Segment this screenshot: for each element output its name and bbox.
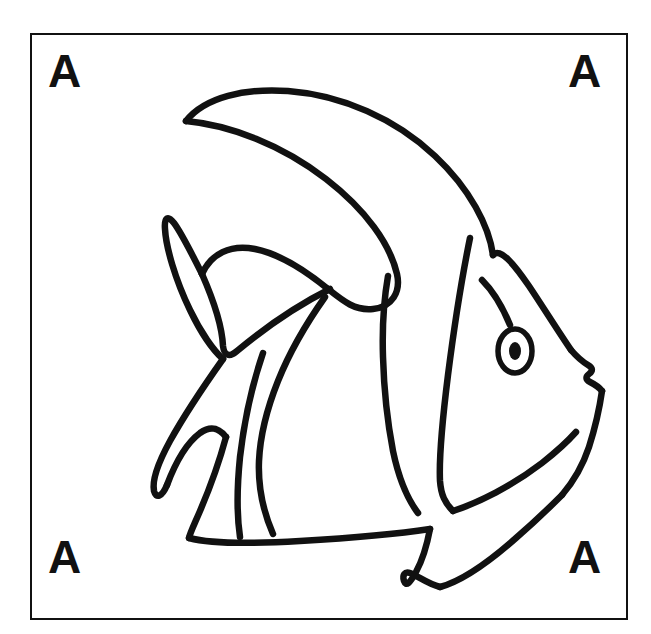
corner-marker-top-right: A (568, 48, 601, 94)
bounding-box (30, 33, 628, 620)
corner-marker-bottom-right: A (568, 534, 601, 580)
corner-marker-top-left: A (48, 48, 81, 94)
page-canvas: A A A A (0, 0, 651, 634)
corner-marker-bottom-left: A (48, 534, 81, 580)
